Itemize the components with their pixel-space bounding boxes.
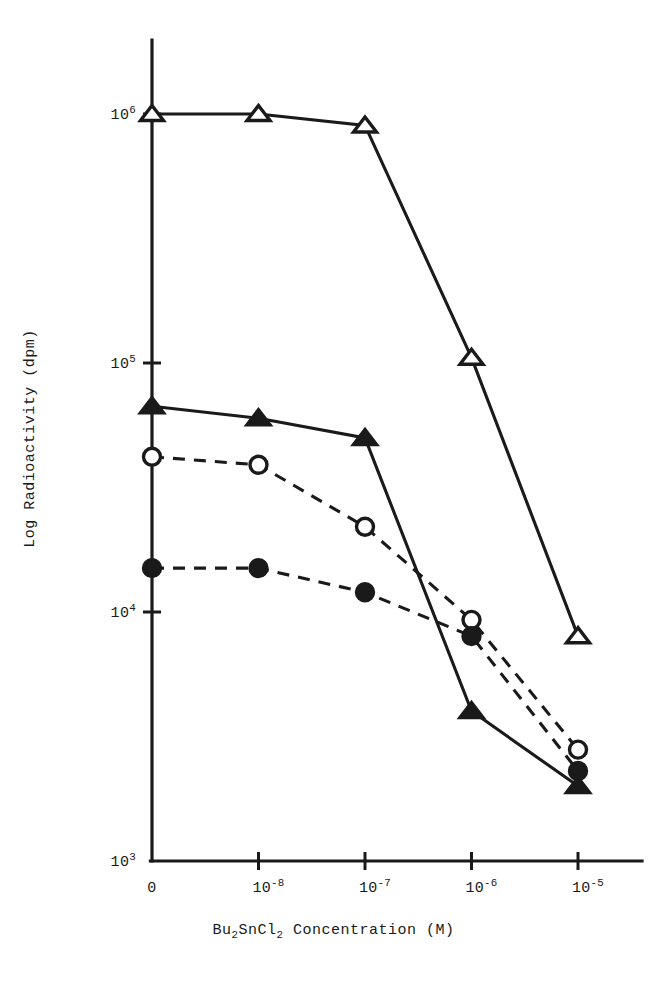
y-tick-mantissa: 10 [111, 107, 130, 124]
data-point-open-circle[interactable] [144, 448, 161, 465]
marker-triangle-filled [460, 703, 483, 718]
x-tick-mantissa: 10 [465, 880, 484, 897]
data-point-filled-circle[interactable] [357, 584, 374, 601]
marker-circle-open [144, 448, 161, 465]
x-tick-mantissa: 10 [252, 880, 271, 897]
marker-circle-filled [144, 560, 161, 577]
y-tick-mantissa: 10 [111, 605, 130, 622]
data-point-open-circle[interactable] [357, 518, 374, 535]
series-line-open-triangle [152, 114, 578, 636]
x-tick-label: 10-6 [465, 877, 497, 897]
x-tick-exponent: -5 [591, 877, 605, 889]
x-tick-exponent: -6 [484, 877, 498, 889]
x-tick-exponent: -8 [271, 877, 285, 889]
y-tick-label: 106 [111, 104, 136, 124]
data-point-filled-circle[interactable] [463, 628, 480, 645]
plot-area [0, 0, 667, 985]
x-axis-title-prefix: Bu [212, 922, 231, 939]
y-axis-title: Log Radioactivity (dpm) [22, 259, 39, 619]
y-tick-label: 105 [111, 353, 136, 373]
marker-circle-open [250, 456, 267, 473]
series-line-open-circle [152, 457, 578, 750]
marker-triangle-filled [141, 398, 164, 413]
y-tick-exponent: 6 [129, 104, 136, 116]
data-point-filled-circle[interactable] [570, 762, 587, 779]
marker-circle-filled [357, 584, 374, 601]
data-point-filled-circle[interactable] [144, 560, 161, 577]
marker-circle-open [357, 518, 374, 535]
x-tick-label: 10-8 [252, 877, 284, 897]
data-point-open-circle[interactable] [250, 456, 267, 473]
y-tick-label: 103 [111, 851, 136, 871]
y-tick-label: 104 [111, 602, 136, 622]
y-tick-exponent: 5 [129, 353, 136, 365]
marker-circle-filled [570, 762, 587, 779]
x-tick-label: 0 [147, 877, 156, 897]
x-tick-mantissa: 10 [572, 880, 591, 897]
data-point-open-triangle[interactable] [567, 628, 590, 643]
chart-figure: Log Radioactivity (dpm) Bu2SnCl2 Concent… [0, 0, 667, 985]
x-axis-title-mid: SnCl [238, 922, 276, 939]
x-tick-mantissa: 0 [147, 880, 156, 897]
y-tick-mantissa: 10 [111, 356, 130, 373]
x-tick-label: 10-7 [359, 877, 391, 897]
data-point-filled-triangle[interactable] [141, 398, 164, 413]
data-point-open-circle[interactable] [463, 611, 480, 628]
x-axis-title: Bu2SnCl2 Concentration (M) [0, 922, 667, 941]
y-tick-exponent: 3 [129, 851, 136, 863]
x-tick-mantissa: 10 [359, 880, 378, 897]
data-point-filled-circle[interactable] [250, 560, 267, 577]
marker-circle-open [463, 611, 480, 628]
x-tick-label: 10-5 [572, 877, 604, 897]
x-axis-title-suffix: Concentration (M) [283, 922, 454, 939]
marker-circle-filled [250, 560, 267, 577]
data-point-open-circle[interactable] [570, 741, 587, 758]
y-tick-mantissa: 10 [111, 854, 130, 871]
data-point-open-triangle[interactable] [460, 349, 483, 364]
marker-circle-filled [463, 628, 480, 645]
marker-triangle-open [460, 349, 483, 364]
marker-circle-open [570, 741, 587, 758]
marker-triangle-open [567, 628, 590, 643]
x-tick-exponent: -7 [378, 877, 392, 889]
y-tick-exponent: 4 [129, 602, 136, 614]
data-point-filled-triangle[interactable] [460, 703, 483, 718]
